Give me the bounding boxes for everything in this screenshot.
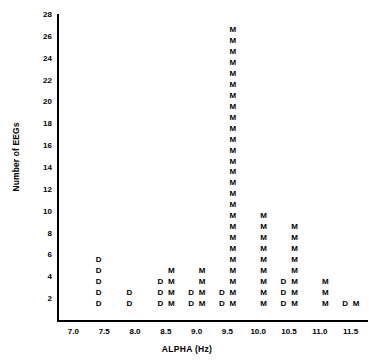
data-point-m: M xyxy=(291,278,298,286)
x-axis-tick: 11.0 xyxy=(312,327,327,336)
data-point-m: M xyxy=(291,245,298,253)
x-axis-tick: 10.0 xyxy=(250,327,266,336)
plot-area: DDDDDDDDDDDDDDDDDDMMMMMMMMMMMMMMMMMMMMMM… xyxy=(0,0,374,361)
data-point-m: M xyxy=(260,278,267,286)
data-point-m: M xyxy=(199,278,206,286)
data-point-d: D xyxy=(157,278,163,286)
data-point-d: D xyxy=(219,289,225,297)
data-point-m: M xyxy=(230,223,237,231)
data-point-d: D xyxy=(157,289,163,297)
data-point-m: M xyxy=(291,300,298,308)
data-point-m: M xyxy=(230,70,237,78)
data-point-m: M xyxy=(230,179,237,187)
data-point-m: M xyxy=(230,125,237,133)
data-point-m: M xyxy=(199,289,206,297)
data-point-d: D xyxy=(127,300,133,308)
data-point-m: M xyxy=(230,201,237,209)
x-axis-tick: 7.5 xyxy=(99,327,110,336)
data-point-m: M xyxy=(230,48,237,56)
x-axis-tick: 10.5 xyxy=(281,327,297,336)
data-point-m: M xyxy=(230,103,237,111)
data-point-d: D xyxy=(342,300,348,308)
data-point-d: D xyxy=(188,289,194,297)
data-point-m: M xyxy=(230,256,237,264)
data-point-m: M xyxy=(230,59,237,67)
data-point-m: M xyxy=(168,300,175,308)
data-point-d: D xyxy=(219,300,225,308)
data-point-m: M xyxy=(322,289,329,297)
data-point-d: D xyxy=(96,256,102,264)
x-axis-tick: 9.5 xyxy=(222,327,233,336)
data-point-m: M xyxy=(230,168,237,176)
data-point-m: M xyxy=(230,300,237,308)
data-point-m: M xyxy=(291,223,298,231)
data-point-m: M xyxy=(230,212,237,220)
data-point-m: M xyxy=(230,158,237,166)
x-axis-tick: 8.5 xyxy=(160,327,171,336)
data-point-m: M xyxy=(260,223,267,231)
data-point-m: M xyxy=(230,26,237,34)
data-point-m: M xyxy=(322,278,329,286)
data-point-m: M xyxy=(230,37,237,45)
data-point-m: M xyxy=(199,267,206,275)
data-point-m: M xyxy=(322,300,329,308)
data-point-m: M xyxy=(230,92,237,100)
data-point-d: D xyxy=(281,289,287,297)
data-point-d: D xyxy=(157,300,163,308)
data-point-d: D xyxy=(96,278,102,286)
data-point-m: M xyxy=(230,245,237,253)
data-point-m: M xyxy=(260,256,267,264)
data-point-m: M xyxy=(230,190,237,198)
data-point-m: M xyxy=(260,234,267,242)
data-point-m: M xyxy=(260,245,267,253)
data-point-m: M xyxy=(230,278,237,286)
data-point-m: M xyxy=(230,114,237,122)
data-point-m: M xyxy=(260,300,267,308)
data-point-m: M xyxy=(230,234,237,242)
data-point-m: M xyxy=(230,136,237,144)
x-axis-tick: 11.5 xyxy=(343,327,358,336)
data-point-m: M xyxy=(230,289,237,297)
x-axis-tick: 8.0 xyxy=(129,327,140,336)
data-point-m: M xyxy=(260,212,267,220)
data-point-d: D xyxy=(96,267,102,275)
data-point-m: M xyxy=(260,267,267,275)
data-point-m: M xyxy=(291,267,298,275)
data-point-m: M xyxy=(199,300,206,308)
data-point-m: M xyxy=(291,256,298,264)
data-point-m: M xyxy=(230,147,237,155)
data-point-m: M xyxy=(168,267,175,275)
data-point-m: M xyxy=(168,289,175,297)
x-axis-label: ALPHA (Hz) xyxy=(0,344,374,354)
x-axis-tick: 9.0 xyxy=(191,327,202,336)
data-point-m: M xyxy=(230,267,237,275)
data-point-m: M xyxy=(353,300,360,308)
eeg-alpha-frequency-chart: Number of EEGs 246810121416182022242628 … xyxy=(0,0,374,361)
data-point-m: M xyxy=(230,81,237,89)
data-point-m: M xyxy=(260,289,267,297)
x-axis-tick: 7.0 xyxy=(68,327,79,336)
data-point-m: M xyxy=(291,234,298,242)
data-point-d: D xyxy=(281,278,287,286)
x-axis-tick-labels: 7.07.58.08.59.09.510.010.511.011.5 xyxy=(0,327,374,341)
data-point-d: D xyxy=(188,300,194,308)
data-point-d: D xyxy=(127,289,133,297)
data-point-m: M xyxy=(291,289,298,297)
data-point-d: D xyxy=(96,289,102,297)
data-point-m: M xyxy=(168,278,175,286)
data-point-d: D xyxy=(281,300,287,308)
data-point-d: D xyxy=(96,300,102,308)
